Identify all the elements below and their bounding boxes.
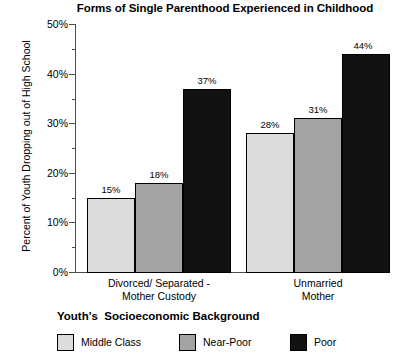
bar-label-divorced-middle-class: 15%	[87, 185, 135, 195]
y-tick-minor-15	[72, 198, 76, 199]
legend-label-near-poor: Near-Poor	[203, 336, 251, 348]
bar-divorced-poor	[183, 89, 231, 273]
bar-label-divorced-poor: 37%	[183, 76, 231, 86]
bar-unmarried-poor	[342, 54, 390, 273]
y-tick-major-20	[69, 173, 76, 174]
bar-label-unmarried-middle-class: 28%	[246, 120, 294, 130]
legend-swatch-near-poor	[179, 334, 196, 351]
y-tick-minor-25	[72, 148, 76, 149]
bar-divorced-middle-class	[87, 198, 135, 273]
legend-swatch-poor	[290, 334, 307, 351]
y-tick-major-40	[69, 74, 76, 75]
y-tick-minor-45	[72, 49, 76, 50]
bar-label-unmarried-poor: 44%	[339, 41, 387, 51]
bar-divorced-near-poor	[135, 183, 183, 273]
y-tick-label-20: 20%	[24, 168, 68, 178]
y-axis-title: Percent of Youth Dropping out of High Sc…	[20, 16, 32, 276]
y-tick-label-0: 0%	[24, 267, 68, 277]
y-tick-label-50: 50%	[24, 19, 68, 29]
legend-label-poor: Poor	[314, 336, 336, 348]
y-tick-major-50	[69, 24, 76, 25]
bar-label-unmarried-near-poor: 31%	[294, 105, 342, 115]
legend-swatch-middle-class	[57, 334, 74, 351]
x-axis-group-label-unmarried: Unmarried Mother	[238, 277, 395, 302]
y-tick-label-10: 10%	[24, 217, 68, 227]
y-tick-minor-5	[72, 247, 76, 248]
legend-title: Youth's Socioeconomic Background	[57, 310, 260, 322]
y-tick-label-40: 40%	[24, 69, 68, 79]
bar-label-divorced-near-poor: 18%	[135, 170, 183, 180]
legend: Middle Class Near-Poor Poor	[57, 332, 387, 354]
chart-title: Forms of Single Parenthood Experienced i…	[60, 2, 390, 14]
y-tick-major-10	[69, 222, 76, 223]
y-tick-major-30	[69, 123, 76, 124]
legend-label-middle-class: Middle Class	[81, 336, 141, 348]
y-tick-minor-35	[72, 99, 76, 100]
y-tick-label-30: 30%	[24, 118, 68, 128]
x-axis-group-label-divorced: Divorced/ Separated - Mother Custody	[79, 277, 239, 302]
bar-unmarried-middle-class	[246, 133, 294, 273]
y-tick-major-0	[69, 272, 76, 273]
bar-unmarried-near-poor	[294, 118, 342, 273]
bar-chart: Forms of Single Parenthood Experienced i…	[0, 0, 395, 361]
